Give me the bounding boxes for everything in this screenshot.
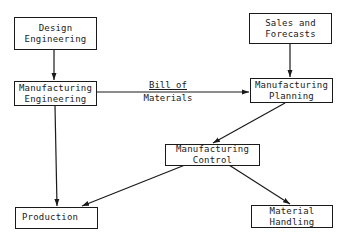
node-label-line2: Handling [270, 217, 315, 228]
edge-mfg-control-to-production [82, 165, 185, 206]
edge-label-bill-of-materials-line1: Bill of [130, 80, 206, 91]
node-label-line1: Manufacturing [176, 144, 249, 155]
node-sales-and-forecasts: Sales and Forecasts [249, 13, 332, 44]
node-label-line1: Material [270, 206, 315, 217]
node-manufacturing-control: Manufacturing Control [165, 144, 260, 166]
node-label-line1: Manufacturing [255, 80, 328, 91]
node-label-line1: Sales and [265, 18, 316, 29]
node-label-line2: Engineering [25, 34, 87, 45]
node-manufacturing-planning: Manufacturing Planning [250, 78, 333, 103]
edge-label-bill-of-materials-line2: Materials [130, 93, 206, 104]
edge-mfg-control-to-material-handling [229, 165, 290, 204]
node-label-line2: Planning [269, 91, 314, 102]
node-design-engineering: Design Engineering [14, 17, 97, 50]
node-label-line1: Production [22, 212, 78, 223]
node-label-line2: Control [193, 155, 232, 166]
edge-mfg-planning-to-mfg-control [213, 103, 285, 143]
node-label-line2: Forecasts [265, 29, 316, 40]
node-production: Production [15, 207, 98, 229]
edge-mfg-engineering-to-production [55, 106, 57, 206]
node-manufacturing-engineering: Manufacturing Engineering [14, 81, 97, 106]
node-label-line1: Manufacturing [19, 83, 92, 94]
node-label-line2: Engineering [25, 94, 87, 105]
node-label-line1: Design [39, 23, 73, 34]
node-material-handling: Material Handling [251, 205, 333, 228]
